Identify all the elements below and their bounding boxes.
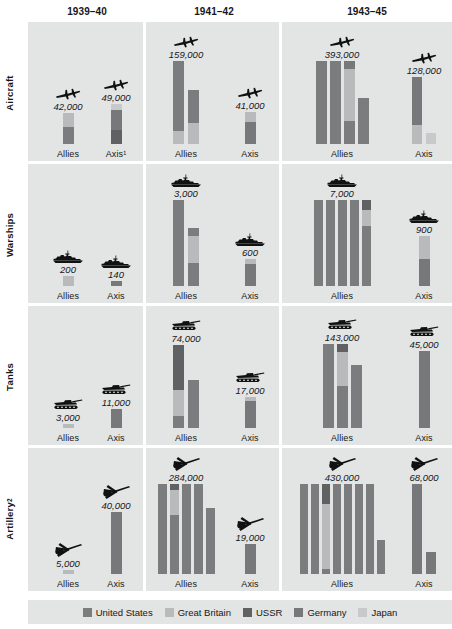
bar[interactable] (182, 484, 191, 574)
side-group-allies: 5,000Allies (44, 448, 92, 591)
bar-segment-great-britain (337, 352, 348, 386)
bar-segment-germany (245, 122, 256, 144)
bar[interactable] (170, 484, 179, 574)
bar[interactable] (426, 133, 436, 144)
bar[interactable] (412, 484, 422, 574)
bar[interactable] (300, 484, 308, 574)
legend-item-germany[interactable]: Germany (294, 607, 346, 618)
bar[interactable] (111, 281, 122, 286)
bar[interactable] (245, 259, 256, 286)
bar[interactable] (158, 484, 167, 574)
side-label-axis: Axis (226, 149, 274, 159)
side-label-allies: Allies (294, 149, 390, 159)
bar[interactable] (333, 484, 341, 574)
bar[interactable] (412, 77, 422, 144)
bar[interactable] (362, 200, 371, 286)
legend-swatch-united-states (83, 608, 92, 617)
bar[interactable] (173, 345, 184, 428)
bar[interactable] (338, 200, 347, 286)
legend-item-great-britain[interactable]: Great Britain (165, 607, 231, 618)
bar[interactable] (173, 200, 184, 286)
bar[interactable] (111, 512, 122, 574)
side-group-allies: 143,000Allies (294, 306, 390, 445)
bar-segment-united-states (330, 61, 341, 144)
bar-segment-great-britain (63, 276, 74, 286)
bar[interactable] (314, 200, 323, 286)
side-plot-area: 600 (226, 164, 274, 286)
bar[interactable] (323, 344, 334, 428)
bar-segment-united-states (366, 484, 374, 574)
bar[interactable] (111, 104, 122, 144)
bar-segment-united-states (173, 61, 184, 131)
bar-group (397, 22, 451, 144)
bar-segment-united-states (377, 540, 385, 574)
bar[interactable] (194, 484, 203, 574)
bar[interactable] (351, 365, 362, 428)
bar[interactable] (311, 484, 319, 574)
side-plot-area: 74,000 (155, 306, 217, 428)
bar[interactable] (419, 236, 430, 286)
bar-group (155, 22, 217, 144)
bar[interactable] (245, 544, 256, 574)
bar[interactable] (426, 552, 436, 574)
bar[interactable] (111, 409, 122, 428)
bar-segment-germany (344, 61, 355, 69)
side-plot-area: 17,000 (226, 306, 274, 428)
bar[interactable] (316, 61, 327, 144)
bar[interactable] (188, 380, 199, 428)
side-group-allies: 3,000Allies (155, 164, 217, 303)
legend-item-united-states[interactable]: United States (83, 607, 153, 618)
bar[interactable] (355, 484, 363, 574)
column-header-row: 1939–40 1941–42 1943–45 (28, 0, 452, 22)
bar-segment-great-britain (344, 69, 355, 120)
bar[interactable] (344, 484, 352, 574)
side-group-allies: 284,000Allies (155, 448, 217, 591)
bar[interactable] (377, 540, 385, 574)
panel-artillery-1939-40: 5,000Allies40,000Axis (28, 448, 146, 594)
bar[interactable] (63, 424, 74, 428)
side-group-axis: 49,000Axis¹ (92, 22, 140, 161)
bar-segment-great-britain (173, 390, 184, 417)
bar-segment-germany (245, 544, 256, 574)
side-group-axis: 600Axis (226, 164, 274, 303)
bar[interactable] (330, 61, 341, 144)
panel-warships-1941-42: 3,000Allies600Axis (146, 164, 282, 306)
bar[interactable] (173, 61, 184, 144)
side-plot-area: 7,000 (294, 164, 390, 286)
bar[interactable] (326, 200, 335, 286)
bar[interactable] (322, 484, 330, 574)
bar[interactable] (63, 276, 74, 286)
bar[interactable] (344, 61, 355, 144)
side-plot-area: 40,000 (92, 448, 140, 574)
bar[interactable] (63, 570, 74, 574)
bar[interactable] (188, 228, 199, 286)
bar-group (44, 448, 92, 574)
legend-item-japan[interactable]: Japan (358, 607, 397, 618)
bar-segment-united-states (314, 200, 323, 286)
side-plot-area: 128,000 (397, 22, 451, 144)
panel-warships-1943-45: 7,000Allies900Axis (282, 164, 452, 306)
bar[interactable] (337, 344, 348, 428)
bar[interactable] (366, 484, 374, 574)
bar-group (397, 306, 451, 428)
bar-segment-germany (111, 110, 122, 130)
bar-group (294, 306, 390, 428)
bar[interactable] (188, 90, 199, 144)
bar-segment-great-britain (173, 131, 184, 144)
bar[interactable] (358, 98, 369, 144)
bar-segment-ussr (111, 130, 122, 144)
bar-group (226, 164, 274, 286)
bar[interactable] (206, 508, 215, 574)
bar[interactable] (63, 113, 74, 144)
side-group-allies: 3,000Allies (44, 306, 92, 445)
side-plot-area: 140 (92, 164, 140, 286)
side-plot-area: 393,000 (294, 22, 390, 144)
legend-item-ussr[interactable]: USSR (243, 607, 282, 618)
bar-segment-united-states (362, 226, 371, 286)
wwii-production-chart: 1939–40 1941–42 1943–45 Aircraft42,000Al… (0, 0, 452, 629)
bar[interactable] (419, 351, 430, 428)
bar[interactable] (350, 200, 359, 286)
bar[interactable] (245, 397, 256, 428)
bar[interactable] (245, 112, 256, 144)
side-label-allies: Allies (155, 433, 217, 443)
